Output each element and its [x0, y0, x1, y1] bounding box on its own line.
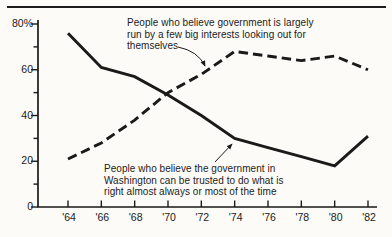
x-tick-label: '78	[295, 211, 309, 223]
x-tick-label: '64	[62, 211, 76, 223]
x-tick-label: '80	[329, 211, 343, 223]
y-tick-label: 0	[27, 200, 33, 212]
annotation-line: right almost always or most of the time	[104, 186, 283, 198]
annotation-trust: People who believe the government in Was…	[104, 163, 283, 198]
annotation-line: themselves	[127, 40, 314, 52]
x-tick-label: '70	[162, 211, 176, 223]
x-tick-label: '66	[95, 211, 109, 223]
y-tick-label: 60	[21, 63, 33, 75]
y-tick-label: 20	[21, 154, 33, 166]
big-interests-line	[68, 51, 368, 159]
x-tick-label: '68	[129, 211, 143, 223]
trust-in-government-line	[68, 33, 368, 166]
y-tick-label: 40	[21, 109, 33, 121]
chart-figure: 020406080%'64'66'68'70'72'74'76'78'80'82…	[0, 0, 392, 237]
annotation-line: People who believe the government in	[104, 163, 283, 175]
x-tick-label: '82	[362, 211, 376, 223]
annotation-big-interests: People who believe government is largely…	[127, 17, 314, 52]
x-tick-label: '72	[195, 211, 209, 223]
annotation-line: run by a few big interests looking out f…	[127, 29, 314, 41]
x-tick-label: '74	[229, 211, 243, 223]
arrow-to-trust-line	[215, 144, 232, 162]
annotation-line: Washington can be trusted to do what is	[104, 175, 283, 187]
annotation-line: People who believe government is largely	[127, 17, 314, 29]
y-tick-label: 80%	[12, 17, 33, 29]
x-tick-label: '76	[262, 211, 276, 223]
